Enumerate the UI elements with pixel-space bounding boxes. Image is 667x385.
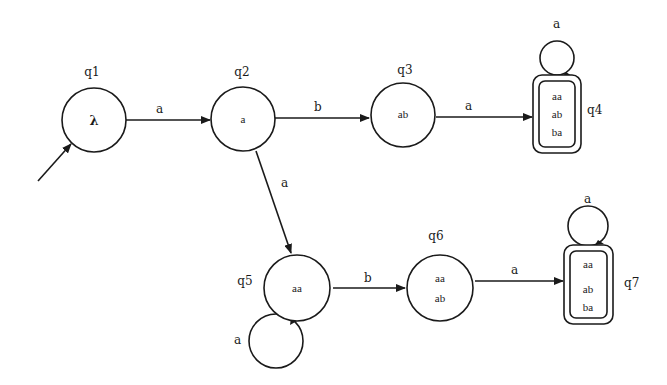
transition-q5-q6: b [333, 271, 405, 288]
transition-label: b [314, 100, 322, 114]
state-q7: aa ab ba q7 [564, 245, 639, 324]
state-content: a [241, 113, 246, 125]
self-loop-q4: a [540, 17, 574, 76]
state-content: ba [552, 126, 563, 138]
transition-q3-q4: a [436, 99, 532, 117]
state-content: ab [398, 108, 409, 120]
state-label: q4 [587, 103, 603, 117]
transition-q1-q2: a [126, 102, 210, 120]
state-content: aa [292, 282, 302, 294]
transition-q2-q5: a [256, 151, 291, 253]
transition-label: b [364, 271, 372, 285]
state-content: ab [552, 108, 563, 120]
state-q3: ab q3 [371, 63, 435, 147]
transition-label: a [511, 263, 518, 277]
transition-label: a [281, 176, 288, 190]
state-q1: λ q1 [62, 65, 126, 152]
transition-label: a [465, 99, 472, 113]
state-content: aa [435, 272, 445, 284]
state-label: q6 [428, 229, 443, 243]
transition-label: a [234, 333, 241, 347]
state-label: q1 [84, 65, 99, 79]
start-arrow [38, 144, 71, 181]
transition-q6-q7: a [475, 263, 563, 281]
state-q4: aa ab ba q4 [533, 75, 603, 153]
state-q2: a q2 [211, 65, 275, 151]
state-label: q5 [237, 274, 252, 288]
state-content: λ [89, 113, 98, 128]
state-content: aa [583, 258, 593, 270]
transition-q2-q3: b [275, 100, 369, 118]
self-loop-q5: a [234, 314, 303, 368]
state-content: ab [435, 292, 446, 304]
transition-label: a [584, 192, 591, 206]
state-content: aa [552, 90, 562, 102]
transition-label: a [553, 17, 560, 31]
self-loop-q7: a [568, 192, 608, 246]
state-label: q2 [234, 65, 249, 79]
transition-label: a [156, 102, 163, 116]
state-content: ab [583, 283, 594, 295]
state-label: q3 [397, 63, 412, 77]
state-label: q7 [624, 276, 639, 290]
state-content: ba [583, 301, 594, 313]
state-q5: aa q5 [237, 255, 330, 321]
automaton-diagram: a b a a b a a a a λ q1 [0, 0, 667, 385]
state-q6: aa ab q6 [407, 229, 473, 321]
